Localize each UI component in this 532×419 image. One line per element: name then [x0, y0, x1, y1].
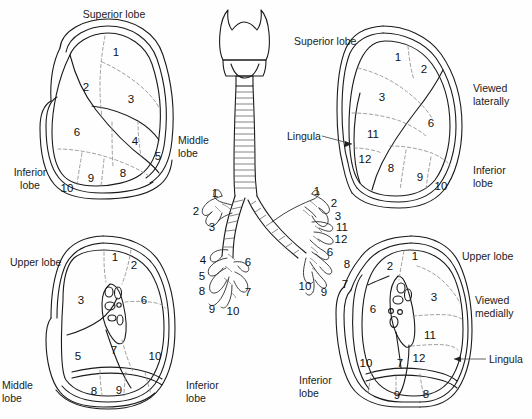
segment-number: 1	[395, 52, 401, 64]
segment-number: 3	[128, 94, 134, 106]
segment-number: 6	[370, 304, 376, 316]
label-top-right-superior-lobe: Superior lobe	[294, 35, 356, 48]
lung-segments-figure: Superior lobe Middle lobe Inferior lobe …	[0, 0, 532, 419]
bronchus-number: 2	[193, 206, 199, 218]
bronchus-number: 8	[199, 286, 205, 298]
segment-number: 7	[397, 358, 403, 370]
segment-number: 2	[387, 261, 393, 273]
segment-number: 7	[111, 345, 117, 357]
segment-number: 10	[61, 183, 74, 195]
segment-number: 8	[423, 389, 429, 401]
bronchus-number: 10	[299, 281, 312, 293]
segment-number: 5	[155, 151, 161, 163]
bronchus-number: 10	[227, 306, 240, 318]
bronchus-number: 2	[331, 198, 337, 210]
segment-number: 9	[417, 172, 423, 184]
segment-number: 9	[116, 385, 122, 397]
bronchus-number: 11	[336, 222, 348, 234]
bronchus-number: 7	[342, 279, 348, 291]
bottom-left-lung-group	[46, 236, 175, 409]
bronchus-number: 1	[212, 188, 218, 200]
segment-number: 1	[113, 47, 119, 59]
bronchus-number: 6	[245, 257, 251, 269]
segment-number: 2	[421, 64, 427, 76]
bronchus-number: 9	[209, 304, 215, 316]
segment-number: 6	[74, 127, 80, 139]
segment-number: 5	[75, 351, 81, 363]
segment-number: 11	[424, 330, 436, 342]
top-left-lung-group	[40, 19, 173, 199]
segment-number: 4	[132, 136, 138, 148]
bronchus-number: 4	[200, 255, 206, 267]
label-top-left-middle-lobe: Middle lobe	[178, 134, 238, 160]
bronchus-number: 9	[321, 287, 327, 299]
segment-number: 1	[412, 251, 418, 263]
segment-number: 12	[413, 353, 426, 365]
bronchus-number: 6	[327, 247, 333, 259]
bronchus-number: 3	[209, 222, 215, 234]
bronchus-number: 7	[245, 287, 251, 299]
label-bottom-right-lingula: Lingula	[489, 353, 523, 366]
segment-number: 2	[131, 260, 137, 272]
label-top-left-superior-lobe: Superior lobe	[60, 8, 168, 21]
segment-number: 9	[88, 173, 94, 185]
label-top-right-lingula: Lingula	[287, 130, 321, 143]
segment-number: 10	[149, 351, 162, 363]
label-bottom-right-inferior-lobe: Inferior lobe	[299, 374, 332, 400]
label-top-right-inferior-lobe: Inferior lobe	[473, 164, 506, 190]
segment-number: 3	[379, 92, 385, 104]
segment-number: 12	[359, 154, 372, 166]
label-bottom-left-inferior-lobe: Inferior lobe	[186, 379, 219, 405]
bronchus-number: 8	[344, 259, 350, 271]
segment-number: 8	[120, 168, 126, 180]
segment-number: 11	[367, 129, 379, 141]
segment-number: 3	[431, 292, 437, 304]
segment-number: 8	[91, 386, 97, 398]
bronchus-number: 5	[199, 271, 205, 283]
label-bottom-left-middle-lobe: Middle lobe	[2, 379, 33, 405]
bronchus-number: 1	[314, 186, 320, 198]
label-top-right-viewed-laterally: Viewed laterally	[473, 82, 509, 108]
segment-number: 10	[360, 358, 373, 370]
label-bottom-right-viewed-medially: Viewed medially	[475, 294, 514, 320]
label-bottom-right-upper-lobe: Upper lobe	[462, 250, 513, 263]
segment-number: 2	[83, 82, 89, 94]
segment-number: 10	[435, 181, 448, 193]
segment-number: 6	[428, 118, 434, 130]
segment-number: 3	[78, 295, 84, 307]
segment-number: 9	[394, 390, 400, 402]
segment-number: 6	[141, 295, 147, 307]
segment-number: 8	[388, 163, 394, 175]
bronchus-number: 12	[335, 234, 348, 246]
segment-number: 1	[112, 252, 118, 264]
label-top-left-inferior-lobe: Inferior lobe	[2, 166, 58, 192]
label-bottom-left-upper-lobe: Upper lobe	[10, 256, 61, 269]
